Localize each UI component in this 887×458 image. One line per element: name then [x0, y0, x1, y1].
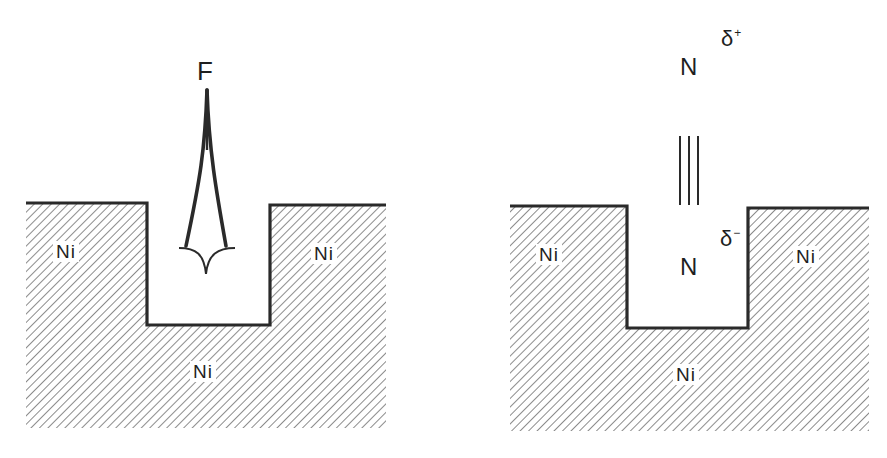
left-substrate [26, 203, 386, 428]
positive-sign: + [734, 26, 741, 40]
nitrogen-top-label: N [680, 55, 697, 79]
partial-positive-charge-label: δ+ [721, 28, 741, 50]
left-panel-ni-bottom-label: Ni [190, 361, 216, 382]
left-panel-ni-right-label: Ni [311, 243, 337, 264]
right-panel-ni-bottom-label: Ni [673, 364, 699, 385]
right-panel-ni-left-label: Ni [536, 244, 562, 265]
partial-negative-charge-label: δ− [720, 228, 740, 250]
delta-symbol: δ [720, 226, 732, 251]
right-substrate [510, 206, 869, 431]
triple-bond-icon [680, 136, 698, 205]
nitrogen-bottom-label: N [680, 255, 697, 279]
left-panel-ni-left-label: Ni [53, 241, 79, 262]
delta-symbol: δ [721, 26, 733, 51]
right-panel-ni-right-label: Ni [793, 246, 819, 267]
fluorine-probe-icon [179, 90, 235, 274]
fluorine-label: F [197, 58, 213, 84]
diagram-canvas [0, 0, 887, 458]
negative-sign: − [733, 226, 740, 240]
